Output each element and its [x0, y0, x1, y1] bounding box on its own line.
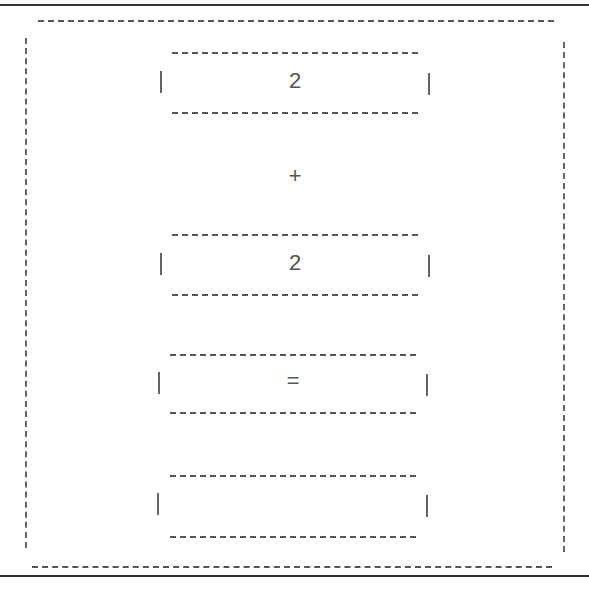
- operand-b-right-border: [428, 255, 430, 277]
- outer-frame-bottom: [32, 566, 552, 568]
- result-left-border: [157, 493, 159, 515]
- operand-b-value[interactable]: 2: [172, 252, 418, 278]
- operand-a-bottom-border: [172, 112, 418, 114]
- operand-b-top-border: [172, 234, 418, 236]
- equals-label[interactable]: =: [170, 370, 416, 396]
- equals-top-border: [170, 354, 416, 356]
- outer-frame-top: [38, 20, 554, 22]
- outer-frame-right: [563, 42, 565, 552]
- operand-b-left-border: [160, 253, 162, 275]
- outer-frame-left: [25, 38, 27, 548]
- operand-a-top-border: [172, 52, 418, 54]
- operand-b-bottom-border: [172, 294, 418, 296]
- equals-right-border: [426, 374, 428, 396]
- top-rule: [0, 4, 589, 6]
- operand-a-value[interactable]: 2: [172, 70, 418, 96]
- bottom-rule: [0, 575, 589, 577]
- equals-left-border: [158, 372, 160, 394]
- operand-a-left-border: [160, 71, 162, 93]
- result-bottom-border: [170, 536, 416, 538]
- operator-symbol: +: [172, 165, 418, 191]
- equals-bottom-border: [170, 412, 416, 414]
- result-top-border: [170, 475, 416, 477]
- result-right-border: [426, 495, 428, 517]
- operand-a-right-border: [428, 73, 430, 95]
